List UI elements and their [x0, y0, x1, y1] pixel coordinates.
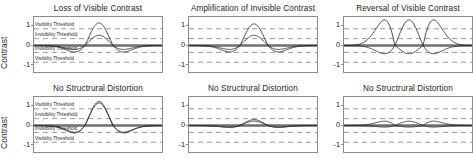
threshold-label-invisibility: Invisibility Threshold — [35, 46, 77, 51]
y-tick-mark — [31, 144, 34, 145]
y-tick-mark — [186, 144, 189, 145]
y-tick-mark — [31, 105, 34, 106]
y-tick-mark — [31, 125, 34, 126]
panel-title: Amplification of Invisible Contrast — [188, 4, 318, 14]
y-tick-label: 1 — [13, 20, 30, 29]
panel-bot-mid: No Structrural Distortion10-1 — [168, 84, 318, 153]
y-tick-mark — [341, 144, 344, 145]
series-amplified — [189, 24, 318, 52]
y-tick-mark — [186, 25, 189, 26]
panel-title: No Structrural Distortion — [33, 84, 163, 94]
curve-canvas — [189, 17, 318, 73]
y-tick-mark — [186, 105, 189, 106]
y-tick-label: -1 — [168, 140, 185, 149]
panel-bot-left: No Structrural Distortion10-1ContrastVis… — [13, 84, 163, 153]
threshold-label-visibility: Visibility Threshold — [35, 22, 74, 27]
series-reversed — [344, 20, 473, 54]
plot-area — [343, 16, 473, 73]
y-tick-label: 0 — [323, 40, 340, 49]
threshold-label-invisibility: Invisibility Threshold — [35, 126, 77, 131]
y-tick-label: 0 — [168, 40, 185, 49]
y-tick-mark — [341, 45, 344, 46]
y-tick-label: -1 — [13, 140, 30, 149]
y-axis-label: Contrast — [0, 117, 9, 149]
panel-title: Reversal of Visible Contrast — [343, 4, 473, 14]
y-tick-label: 0 — [13, 120, 30, 129]
y-tick-label: 1 — [13, 100, 30, 109]
y-tick-mark — [341, 105, 344, 106]
y-tick-mark — [31, 45, 34, 46]
y-tick-label: 1 — [168, 100, 185, 109]
curve-canvas — [344, 97, 473, 153]
series-original — [189, 35, 318, 49]
y-tick-mark — [186, 125, 189, 126]
plot-area — [343, 96, 473, 153]
y-tick-label: 0 — [13, 40, 30, 49]
y-tick-mark — [341, 64, 344, 65]
panel-title: Loss of Visible Contrast — [33, 4, 163, 14]
y-axis-label: Contrast — [0, 37, 9, 69]
y-tick-mark — [31, 25, 34, 26]
y-tick-label: -1 — [323, 60, 340, 69]
panel-top-left: Loss of Visible Contrast10-1ContrastVisi… — [13, 4, 163, 73]
threshold-label-visibility: Visibility Threshold — [35, 136, 74, 141]
y-tick-label: -1 — [323, 140, 340, 149]
curve-canvas — [344, 17, 473, 73]
threshold-label-visibility: Visibility Threshold — [35, 102, 74, 107]
panel-top-right: Reversal of Visible Contrast10-1 — [323, 4, 473, 73]
panel-top-mid: Amplification of Invisible Contrast10-1 — [168, 4, 318, 73]
panel-title: No Structrural Distortion — [343, 84, 473, 94]
y-tick-mark — [341, 25, 344, 26]
y-tick-label: 1 — [323, 100, 340, 109]
series-original — [344, 20, 473, 54]
y-tick-label: -1 — [13, 60, 30, 69]
y-tick-label: 1 — [323, 20, 340, 29]
y-tick-label: -1 — [168, 60, 185, 69]
y-tick-mark — [186, 64, 189, 65]
y-tick-label: 0 — [323, 120, 340, 129]
plot-area — [188, 16, 318, 73]
panel-title: No Structrural Distortion — [188, 84, 318, 94]
y-tick-mark — [341, 125, 344, 126]
threshold-label-invisibility: Invisibility Threshold — [35, 32, 77, 37]
plot-area — [188, 96, 318, 153]
threshold-label-invisibility: Invisibility Threshold — [35, 112, 77, 117]
y-tick-label: 1 — [168, 20, 185, 29]
y-tick-mark — [186, 45, 189, 46]
panel-bot-right: No Structrural Distortion10-1 — [323, 84, 473, 153]
curve-canvas — [189, 97, 318, 153]
y-tick-label: 0 — [168, 120, 185, 129]
threshold-label-visibility: Visibility Threshold — [35, 56, 74, 61]
y-tick-mark — [31, 64, 34, 65]
